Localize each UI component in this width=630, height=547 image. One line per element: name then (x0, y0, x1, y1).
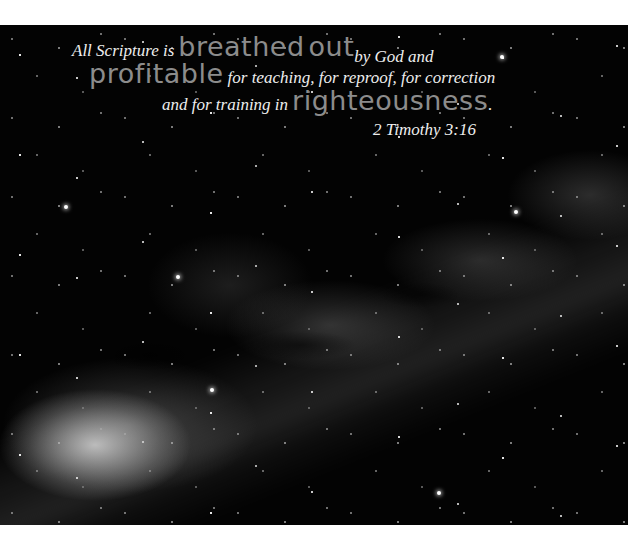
bright-star (64, 205, 68, 209)
bright-star (514, 210, 518, 214)
bright-star (176, 275, 180, 279)
reference-text: 2 Timothy 3:16 (373, 120, 476, 139)
verse-period: . (488, 95, 492, 114)
bright-star (500, 55, 504, 59)
bright-star (437, 491, 441, 495)
emphasis-word: righteousness (292, 85, 488, 116)
bright-star (210, 388, 214, 392)
verse-reference: 2 Timothy 3:16 (373, 120, 476, 140)
verse-line-3: and for training in righteousness. (162, 85, 492, 116)
verse-text: and for training in (162, 95, 288, 114)
